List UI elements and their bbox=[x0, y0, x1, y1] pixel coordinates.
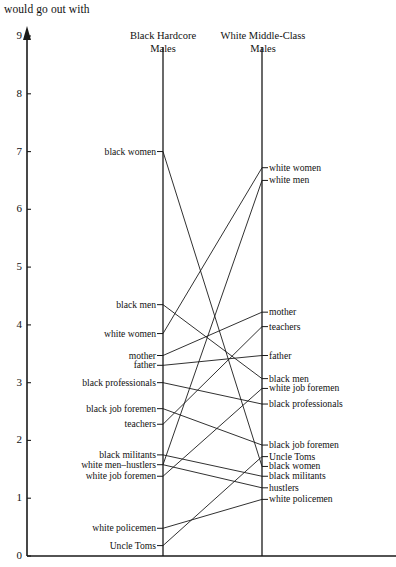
y-axis-tick-label: 4 bbox=[8, 318, 22, 330]
node-label-left: white men–hustlers bbox=[81, 460, 156, 470]
column-header-right-line1: White Middle-Class bbox=[188, 30, 338, 43]
node-label-right: mother bbox=[269, 307, 296, 317]
connection-line bbox=[163, 457, 262, 546]
connection-line bbox=[163, 180, 262, 464]
connection-line bbox=[163, 383, 262, 404]
y-axis-tick-label: 2 bbox=[8, 433, 22, 445]
connection-line bbox=[163, 152, 262, 467]
y-axis-tick-label: 3 bbox=[8, 376, 22, 388]
node-label-left: father bbox=[134, 360, 156, 370]
connection-line bbox=[163, 455, 262, 476]
axis-title: would go out with bbox=[4, 3, 90, 15]
y-axis-tick-label: 5 bbox=[8, 260, 22, 272]
column-header-right: White Middle-Class Males bbox=[188, 30, 338, 55]
connection-line bbox=[163, 465, 262, 488]
connection-line bbox=[163, 356, 262, 366]
connection-line bbox=[163, 499, 262, 528]
node-label-left: black men bbox=[116, 300, 156, 310]
y-axis-tick-label: 7 bbox=[8, 145, 22, 157]
chart-lines-layer bbox=[0, 0, 396, 567]
y-axis-tick-label: 6 bbox=[8, 202, 22, 214]
node-label-left: black job foremen bbox=[86, 404, 156, 414]
node-label-right: white men bbox=[269, 175, 309, 185]
node-label-left: Uncle Toms bbox=[110, 541, 156, 551]
y-axis-tick-label: 9 bbox=[8, 29, 22, 41]
node-label-left: black women bbox=[105, 147, 156, 157]
connection-line bbox=[163, 305, 262, 379]
connection-line bbox=[163, 409, 262, 445]
node-label-left: black professionals bbox=[82, 378, 156, 388]
y-axis-tick-label: 8 bbox=[8, 87, 22, 99]
node-label-left: teachers bbox=[125, 419, 156, 429]
y-axis-arrowhead bbox=[23, 26, 31, 40]
connection-line bbox=[163, 327, 262, 425]
node-label-right: teachers bbox=[269, 322, 300, 332]
node-label-right: white job foremen bbox=[269, 383, 339, 393]
connection-line bbox=[163, 168, 262, 334]
y-axis-tick-label: 0 bbox=[8, 549, 22, 561]
node-label-right: white women bbox=[269, 163, 321, 173]
node-label-right: white policemen bbox=[269, 494, 333, 504]
node-label-left: white policemen bbox=[92, 523, 156, 533]
connection-lines-group bbox=[163, 152, 262, 546]
node-label-right: black job foremen bbox=[269, 440, 339, 450]
node-label-right: black professionals bbox=[269, 399, 343, 409]
node-label-left: white women bbox=[104, 329, 156, 339]
y-axis-tick-label: 1 bbox=[8, 491, 22, 503]
node-label-right: father bbox=[269, 351, 291, 361]
node-label-right: black militants bbox=[269, 471, 326, 481]
chart-canvas: would go out with Black Hardcore Males W… bbox=[0, 0, 396, 567]
connection-line bbox=[163, 312, 262, 355]
axes-group bbox=[23, 26, 396, 556]
node-label-left: white job foremen bbox=[86, 471, 156, 481]
column-header-right-line2: Males bbox=[188, 43, 338, 56]
connection-line bbox=[163, 388, 262, 476]
node-label-right: hustlers bbox=[269, 483, 299, 493]
